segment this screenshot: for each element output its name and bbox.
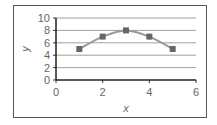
y-tick-label: 8: [44, 24, 50, 36]
y-tick-label: 4: [44, 49, 50, 61]
y-axis-label: y: [19, 45, 31, 53]
line-chart: 02468100246xy: [0, 0, 217, 125]
x-tick-label: 2: [100, 86, 106, 98]
x-tick-label: 6: [193, 86, 199, 98]
x-axis-label: x: [122, 102, 129, 114]
data-point-marker: [123, 27, 129, 33]
data-point-marker: [170, 46, 176, 52]
data-point-marker: [100, 34, 106, 40]
data-point-marker: [76, 46, 82, 52]
x-tick-label: 4: [146, 86, 152, 98]
y-tick-label: 0: [44, 74, 50, 86]
x-tick-label: 0: [53, 86, 59, 98]
data-point-marker: [146, 34, 152, 40]
y-tick-label: 10: [38, 12, 50, 24]
y-tick-label: 2: [44, 62, 50, 74]
y-tick-label: 6: [44, 37, 50, 49]
